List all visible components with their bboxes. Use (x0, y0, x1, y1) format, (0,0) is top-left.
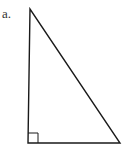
right-triangle (28, 9, 120, 143)
right-angle-marker (28, 133, 38, 143)
triangle-diagram (0, 0, 125, 149)
